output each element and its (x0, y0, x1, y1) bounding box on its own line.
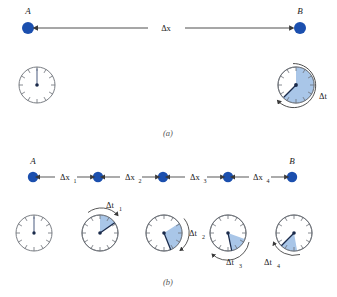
interval-dx1-subscript: 1 (74, 178, 77, 184)
point-a-label-b: A (29, 156, 36, 166)
elapsed-time-sub-4: 4 (277, 263, 280, 269)
interval-dx4-subscript: 4 (267, 178, 270, 184)
point-a-dot (22, 22, 34, 34)
point-b-dot-b (287, 172, 297, 182)
clock-a-start (19, 67, 55, 103)
interval-dx2: Δx 2 (105, 172, 156, 184)
clock-a-end: Δt (278, 64, 328, 108)
clock-b-2: Δt 2 (146, 215, 205, 251)
clock-b-4: Δt 4 (264, 215, 312, 269)
point-p2-dot (158, 172, 168, 182)
interval-dx3: Δx 3 (170, 172, 221, 184)
elapsed-time-label-2: Δt (189, 228, 197, 238)
panel-b-caption: (b) (163, 277, 173, 287)
point-b-label: B (297, 6, 303, 16)
interval-dx2-label: Δx (125, 172, 135, 182)
interval-dx4-label: Δx (253, 172, 263, 182)
clock-b-0 (16, 215, 52, 251)
physics-displacement-time-figure: A Δx B (0, 0, 337, 297)
point-a-dot-b (28, 172, 38, 182)
panel-a: A Δx B (19, 6, 327, 138)
elapsed-time-sub-1: 1 (119, 206, 122, 212)
elapsed-time-sub-2: 2 (202, 234, 205, 240)
interval-dx4: Δx 4 (235, 172, 285, 184)
interval-dx3-label: Δx (190, 172, 200, 182)
point-p3-dot (223, 172, 233, 182)
panel-a-caption: (a) (163, 128, 173, 138)
point-b: B (294, 6, 306, 34)
displacement-label-a: Δx (161, 23, 171, 33)
panel-b: A B Δx 1 Δx 2 Δx 3 (16, 156, 312, 287)
elapsed-time-label-a: Δt (319, 91, 327, 101)
point-b-label-b: B (289, 156, 295, 166)
interval-dx3-subscript: 3 (204, 178, 207, 184)
clock-b-3: Δt 3 (210, 215, 249, 269)
point-a: A (22, 6, 34, 34)
interval-dx2-subscript: 2 (139, 178, 142, 184)
displacement-arrow-a: Δx (38, 23, 290, 33)
point-b-dot (294, 22, 306, 34)
point-a-label: A (24, 6, 31, 16)
elapsed-time-label-3: Δt (226, 257, 234, 267)
interval-dx1: Δx 1 (40, 172, 91, 184)
elapsed-time-sub-3: 3 (239, 263, 242, 269)
point-p1-dot (93, 172, 103, 182)
interval-dx1-label: Δx (60, 172, 70, 182)
elapsed-time-label-4: Δt (264, 257, 272, 267)
elapsed-time-label-1: Δt (106, 200, 114, 210)
clock-b-1: Δt 1 (82, 200, 122, 251)
